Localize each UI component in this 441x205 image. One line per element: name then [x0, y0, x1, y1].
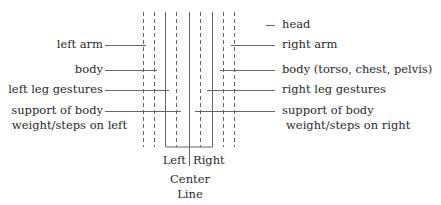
label-left-support-line2: weight/steps on left: [12, 119, 127, 132]
label-right-arm: right arm: [282, 38, 337, 51]
label-left-leg-gestures: left leg gestures: [8, 83, 103, 96]
label-left-side: Left: [163, 154, 186, 167]
label-center-line-2: Line: [168, 188, 212, 201]
label-left-support-line1: support of body: [11, 104, 103, 117]
label-right-support-line1: support of body: [282, 104, 374, 117]
label-right-leg-gestures: right leg gestures: [282, 83, 386, 96]
label-right-support-line2: weight/steps on right: [286, 119, 410, 132]
label-left-body: body: [75, 63, 103, 76]
label-center-line-1: Center: [168, 173, 212, 186]
label-right-side: Right: [193, 154, 225, 167]
label-head: head: [282, 18, 310, 31]
label-right-body: body (torso, chest, pelvis): [282, 63, 432, 76]
label-left-arm: left arm: [57, 38, 103, 51]
